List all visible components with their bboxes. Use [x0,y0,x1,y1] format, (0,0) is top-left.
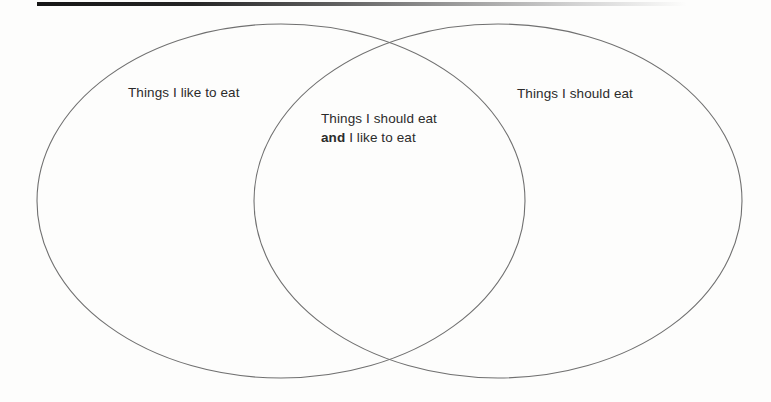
intersection-label-line2: and I like to eat [321,128,437,147]
left-set-ellipse [37,24,525,378]
intersection-line2-rest: I like to eat [345,130,415,145]
right-set-label: Things I should eat [517,84,633,103]
right-set-ellipse [254,24,742,378]
venn-diagram [0,0,771,402]
left-set-label: Things I like to eat [128,83,240,102]
intersection-label: Things I should eat and I like to eat [321,109,437,147]
venn-diagram-page: Things I like to eat Things I should eat… [0,0,771,402]
intersection-and-bold: and [321,130,345,145]
intersection-label-line1: Things I should eat [321,109,437,128]
